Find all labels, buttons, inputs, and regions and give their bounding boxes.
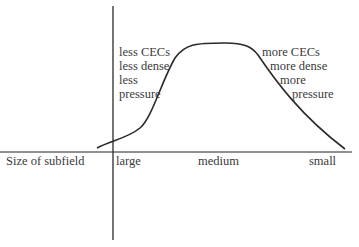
x-tick-medium: medium	[198, 154, 239, 169]
right-annotation-line-2: more dense	[270, 59, 327, 74]
left-annotation-line-1: less CECs	[119, 45, 170, 60]
x-tick-large: large	[116, 154, 141, 169]
x-axis-label: Size of subfield	[6, 154, 84, 169]
right-annotation-line-3: more	[280, 73, 306, 88]
left-annotation-line-3: less	[119, 73, 138, 88]
diagram-canvas	[0, 0, 359, 247]
x-tick-small: small	[309, 154, 336, 169]
right-annotation-line-4: pressure	[292, 87, 334, 102]
right-annotation-line-1: more CECs	[262, 45, 320, 60]
left-annotation-line-2: less dense	[119, 59, 169, 74]
left-annotation-line-4: pressure	[119, 87, 161, 102]
